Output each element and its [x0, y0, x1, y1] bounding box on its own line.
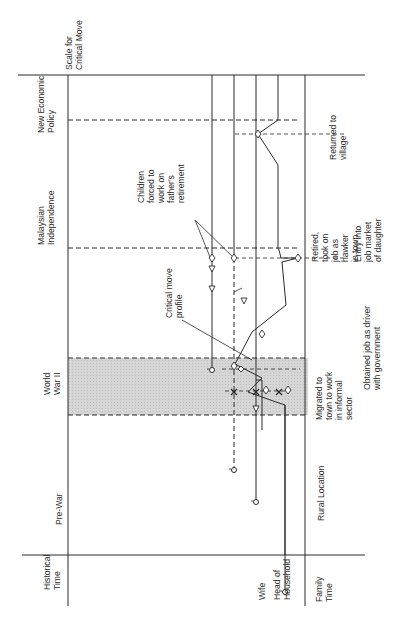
label-historical-time: HistoricalTime [42, 555, 62, 590]
label-world-war-ii: WorldWar II [42, 372, 62, 395]
label-critical-move-profile: Critical moveprofile [164, 268, 184, 318]
label-rural-location: Rural Location [316, 465, 326, 521]
label-pre-war: Pre-War [54, 493, 64, 525]
event-diamond-icon [209, 130, 301, 394]
label-migrated: Migrated totown to workin informalsector [314, 371, 354, 420]
label-entry-job-market: Entry intojob marketof daughter [353, 218, 383, 263]
label-children-forced: Childrenforced towork onfather'sretireme… [136, 164, 186, 204]
label-malaysian-independence: MalaysianIndependence [36, 190, 56, 245]
family-time-diagram: HistoricalTime Pre-War WorldWar II Malay… [0, 0, 399, 624]
label-new-economic-policy: New EconomicPolicy [36, 75, 56, 133]
label-family-time: FamilyTime [314, 576, 334, 602]
label-scale-critical-move: Scale forCritical Move [64, 20, 84, 70]
label-head-of-household: Head ofHousehold [272, 559, 292, 600]
label-wife: Wife [257, 583, 267, 600]
label-obtained-job: Obtained job as driverwith government [362, 306, 382, 391]
head-of-household-line [235, 75, 298, 555]
world-war-ii-band [68, 358, 308, 415]
label-returned-village: Returned tovillage [328, 115, 348, 160]
